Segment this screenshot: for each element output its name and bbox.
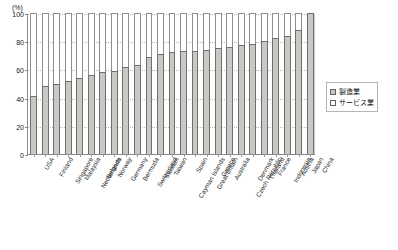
bar-manufacturing[interactable] <box>30 96 37 154</box>
bar-group[interactable] <box>157 14 164 154</box>
bar-group[interactable] <box>215 14 222 154</box>
legend-label: 製造業 <box>339 88 360 95</box>
bar-group[interactable] <box>122 14 129 154</box>
bar-manufacturing[interactable] <box>238 45 245 154</box>
bar-manufacturing[interactable] <box>226 47 233 154</box>
y-tick-label: 20 <box>16 123 24 130</box>
bar-group[interactable] <box>76 14 83 154</box>
legend-swatch-icon <box>330 89 336 95</box>
bar-manufacturing[interactable] <box>122 67 129 154</box>
y-tick-label: 100 <box>12 11 24 18</box>
bar-manufacturing[interactable] <box>215 48 222 154</box>
bar-manufacturing[interactable] <box>307 13 314 154</box>
bar-group[interactable] <box>88 14 95 154</box>
x-axis-label: Finland <box>58 156 75 178</box>
bar-group[interactable] <box>192 14 199 154</box>
bar-group[interactable] <box>99 14 106 154</box>
x-axis-label: Spain <box>194 156 208 174</box>
bar-manufacturing[interactable] <box>111 71 118 154</box>
bar-group[interactable] <box>65 14 72 154</box>
bar-manufacturing[interactable] <box>88 75 95 154</box>
chart-legend: 製造業 サービス業 <box>326 82 378 112</box>
x-axis-label: USA <box>42 156 55 171</box>
bar-manufacturing[interactable] <box>192 51 199 154</box>
bar-group[interactable] <box>53 14 60 154</box>
bar-group[interactable] <box>134 14 141 154</box>
bar-group[interactable] <box>30 14 37 154</box>
bar-manufacturing[interactable] <box>284 36 291 154</box>
bar-group[interactable] <box>249 14 256 154</box>
chart-container: (%) 020406080100 USAFinlandSingaporeMala… <box>0 0 398 250</box>
bar-manufacturing[interactable] <box>157 54 164 154</box>
legend-item-manufacturing[interactable]: 製造業 <box>330 86 374 97</box>
y-tick-label: 80 <box>16 39 24 46</box>
bar-group[interactable] <box>42 14 49 154</box>
bar-manufacturing[interactable] <box>180 51 187 154</box>
bar-manufacturing[interactable] <box>249 44 256 154</box>
bar-manufacturing[interactable] <box>295 30 302 154</box>
bar-manufacturing[interactable] <box>99 72 106 154</box>
bar-manufacturing[interactable] <box>261 41 268 154</box>
bar-group[interactable] <box>307 14 314 154</box>
x-axis-labels: USAFinlandSingaporeMalaysiaNetherlandsBe… <box>27 156 315 248</box>
bar-group[interactable] <box>284 14 291 154</box>
bar-manufacturing[interactable] <box>76 78 83 154</box>
bar-manufacturing[interactable] <box>53 84 60 155</box>
bar-group[interactable] <box>146 14 153 154</box>
bar-manufacturing[interactable] <box>65 81 72 154</box>
bar-manufacturing[interactable] <box>42 86 49 154</box>
bar-group[interactable] <box>169 14 176 154</box>
bar-manufacturing[interactable] <box>169 52 176 154</box>
bar-group[interactable] <box>238 14 245 154</box>
bar-manufacturing[interactable] <box>203 50 210 154</box>
bar-group[interactable] <box>226 14 233 154</box>
bar-manufacturing[interactable] <box>134 65 141 154</box>
bar-manufacturing[interactable] <box>272 38 279 154</box>
y-tick-label: 40 <box>16 95 24 102</box>
y-axis: 020406080100 <box>0 14 26 155</box>
y-tick-label: 0 <box>20 152 24 159</box>
plot-area <box>27 14 315 155</box>
bar-group[interactable] <box>295 14 302 154</box>
bar-manufacturing[interactable] <box>146 57 153 154</box>
bar-group[interactable] <box>180 14 187 154</box>
legend-item-services[interactable]: サービス業 <box>330 97 374 108</box>
legend-swatch-icon <box>330 100 336 106</box>
bar-group[interactable] <box>272 14 279 154</box>
bars-layer <box>28 14 315 154</box>
y-tick-label: 60 <box>16 67 24 74</box>
bar-group[interactable] <box>203 14 210 154</box>
bar-group[interactable] <box>261 14 268 154</box>
bar-group[interactable] <box>111 14 118 154</box>
legend-label: サービス業 <box>339 99 374 106</box>
